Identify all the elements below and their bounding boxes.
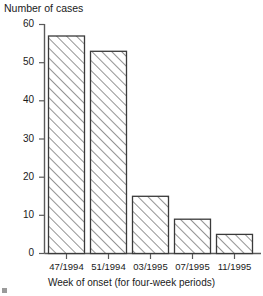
bar-1 [91,51,127,253]
bar-chart-figure: Number of cases [0,0,263,296]
plot-area: 60 50 40 30 20 10 0 47/1994 51/1994 03/1… [0,0,263,296]
y-tick-label-50: 50 [12,57,34,67]
x-axis-title: Week of onset (for four-week periods) [0,277,263,289]
bar-0 [49,36,85,254]
corner-artifact-mark [2,288,7,293]
y-tick-label-60: 60 [12,19,34,29]
y-tick-label-30: 30 [12,134,34,144]
bar-4 [217,234,253,253]
y-tick-label-10: 10 [12,210,34,220]
chart-canvas [0,0,263,296]
y-tick-label-20: 20 [12,172,34,182]
y-tick-label-40: 40 [12,95,34,105]
bar-3 [175,219,211,253]
bar-2 [133,196,169,253]
x-tick-label-4: 11/1995 [208,261,262,272]
y-tick-label-0: 0 [12,248,34,258]
